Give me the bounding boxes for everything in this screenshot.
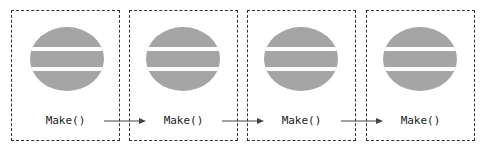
hamburger-gap-top — [146, 47, 220, 51]
hamburger-gap-top — [383, 47, 457, 51]
hamburger-icon — [146, 27, 220, 91]
arrow-right-icon — [104, 116, 146, 126]
hamburger-icon — [264, 27, 338, 91]
make-pipeline-diagram: Make() Make() Make() Make() — [0, 0, 486, 152]
hamburger-gap-bottom — [146, 67, 220, 71]
arrow-right-icon — [222, 116, 264, 126]
hamburger-gap-bottom — [383, 67, 457, 71]
stage-label-2: Make() — [130, 114, 237, 127]
arrow-right-icon — [341, 116, 383, 126]
hamburger-gap-bottom — [264, 67, 338, 71]
stage-label-3: Make() — [248, 114, 355, 127]
hamburger-icon — [30, 27, 104, 91]
hamburger-icon — [383, 27, 457, 91]
hamburger-gap-bottom — [30, 67, 104, 71]
hamburger-gap-top — [264, 47, 338, 51]
stage-label-1: Make() — [12, 114, 119, 127]
stage-label-4: Make() — [367, 114, 474, 127]
hamburger-gap-top — [30, 47, 104, 51]
